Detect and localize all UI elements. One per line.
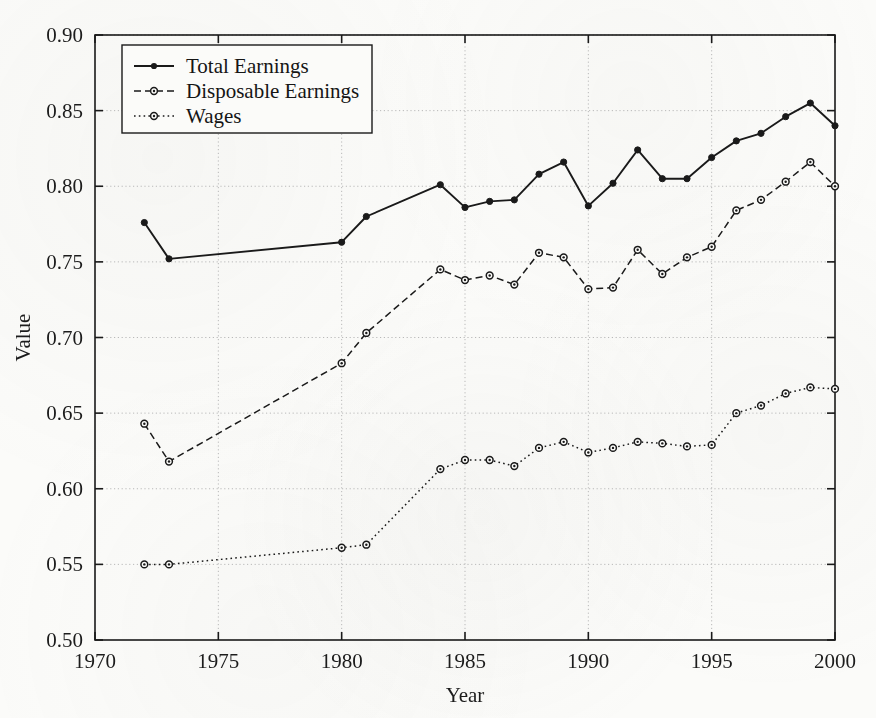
data-point-core — [464, 459, 466, 461]
x-tick-label: 1995 — [691, 649, 733, 673]
data-point — [832, 123, 838, 129]
data-point — [339, 239, 345, 245]
data-point-core — [143, 423, 145, 425]
data-point — [487, 198, 493, 204]
data-point-core — [834, 388, 836, 390]
series-line — [144, 162, 835, 461]
data-point-core — [464, 279, 466, 281]
data-point — [141, 219, 147, 225]
y-tick-label: 0.85 — [46, 99, 83, 123]
legend-sample-marker — [151, 63, 157, 69]
data-point — [758, 130, 764, 136]
data-point-core — [562, 441, 564, 443]
x-tick-label: 1990 — [567, 649, 609, 673]
data-point-core — [340, 547, 342, 549]
data-point-core — [784, 181, 786, 183]
data-point-core — [661, 442, 663, 444]
data-point-core — [612, 286, 614, 288]
legend-sample-marker-core — [153, 115, 155, 117]
data-point-core — [710, 246, 712, 248]
data-point-core — [439, 468, 441, 470]
data-point-core — [488, 274, 490, 276]
data-point-core — [760, 404, 762, 406]
y-tick-label: 0.75 — [46, 250, 83, 274]
data-point — [659, 176, 665, 182]
x-tick-label: 1985 — [444, 649, 486, 673]
data-point — [363, 213, 369, 219]
y-axis-tick-labels: 0.500.550.600.650.700.750.800.850.90 — [46, 23, 83, 652]
series-line — [144, 387, 835, 564]
data-point-core — [538, 447, 540, 449]
x-tick-label: 1975 — [197, 649, 239, 673]
data-point — [610, 180, 616, 186]
data-point-core — [686, 445, 688, 447]
legend-label: Total Earnings — [186, 54, 309, 78]
legend-label: Disposable Earnings — [186, 79, 359, 103]
data-point-core — [636, 441, 638, 443]
data-point-core — [661, 273, 663, 275]
data-point-core — [340, 362, 342, 364]
data-point-core — [488, 459, 490, 461]
data-point-core — [168, 563, 170, 565]
data-point-core — [636, 249, 638, 251]
data-point-core — [784, 392, 786, 394]
data-point-core — [513, 283, 515, 285]
data-point-core — [365, 332, 367, 334]
data-point — [166, 256, 172, 262]
data-point-core — [587, 288, 589, 290]
data-point-core — [760, 199, 762, 201]
x-tick-label: 1980 — [321, 649, 363, 673]
data-point-core — [143, 563, 145, 565]
legend-sample-marker-core — [153, 90, 155, 92]
data-point — [585, 203, 591, 209]
data-point-core — [513, 465, 515, 467]
y-tick-label: 0.70 — [46, 326, 83, 350]
data-point-core — [809, 161, 811, 163]
data-point-core — [809, 386, 811, 388]
data-point-core — [587, 451, 589, 453]
data-point-core — [538, 252, 540, 254]
data-point-core — [735, 412, 737, 414]
data-point — [684, 176, 690, 182]
data-point — [733, 138, 739, 144]
y-tick-label: 0.60 — [46, 477, 83, 501]
x-axis-tick-labels: 1970197519801985199019952000 — [74, 649, 856, 673]
data-point — [437, 182, 443, 188]
data-point — [536, 171, 542, 177]
data-point-core — [710, 444, 712, 446]
data-point — [709, 154, 715, 160]
data-point-core — [562, 256, 564, 258]
x-tick-label: 1970 — [74, 649, 116, 673]
data-point-core — [612, 447, 614, 449]
series-wages — [141, 384, 838, 568]
y-tick-label: 0.65 — [46, 401, 83, 425]
y-tick-label: 0.80 — [46, 174, 83, 198]
data-point — [635, 147, 641, 153]
data-point-core — [168, 460, 170, 462]
data-point-core — [834, 185, 836, 187]
y-tick-label: 0.90 — [46, 23, 83, 47]
legend: Total EarningsDisposable EarningsWages — [122, 45, 372, 133]
data-point-core — [735, 209, 737, 211]
data-point — [783, 114, 789, 120]
chart-figure: 0.500.550.600.650.700.750.800.850.901970… — [0, 0, 876, 718]
line-chart: 0.500.550.600.650.700.750.800.850.901970… — [0, 0, 876, 718]
data-point — [807, 100, 813, 106]
data-point-core — [686, 256, 688, 258]
data-point-core — [365, 544, 367, 546]
x-tick-label: 2000 — [814, 649, 856, 673]
data-point — [511, 197, 517, 203]
y-axis-title: Value — [11, 314, 35, 362]
data-point-core — [439, 268, 441, 270]
x-axis-title: Year — [446, 683, 485, 707]
legend-label: Wages — [186, 104, 241, 128]
y-tick-label: 0.55 — [46, 552, 83, 576]
data-point — [561, 159, 567, 165]
data-point — [462, 204, 468, 210]
